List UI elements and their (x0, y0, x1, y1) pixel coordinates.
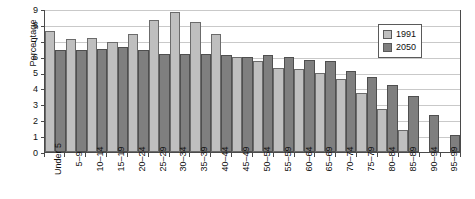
bar-1991-15–19 (107, 42, 117, 152)
x-tick-label: 35–39 (200, 146, 209, 171)
bar-2050-10–14 (97, 49, 107, 152)
bar-group (232, 11, 253, 152)
bar-group (273, 11, 294, 152)
bar-group (356, 11, 377, 152)
x-label-cell: 80–84 (378, 157, 399, 199)
bar-group (439, 11, 460, 152)
y-tick-label: 5 (33, 69, 38, 78)
bar-1991-75–79 (356, 93, 366, 152)
legend: 1991 2050 (378, 24, 422, 58)
y-tick-label: 8 (33, 21, 38, 30)
bar-2050-50–54 (263, 55, 273, 152)
bar-2050-80–84 (387, 85, 397, 152)
bar-group (253, 11, 274, 152)
bar-2050-85–89 (408, 96, 418, 152)
legend-item-1991: 1991 (383, 28, 416, 41)
x-axis-labels: Under 55–910–1415–1920–2425–2930–3435–39… (44, 157, 461, 199)
y-tick-label: 1 (33, 133, 38, 142)
bar-1991-10–14 (87, 38, 97, 152)
x-label-cell: 30–34 (169, 157, 190, 199)
bar-1991-35–39 (190, 22, 200, 152)
y-tick-label: 7 (33, 37, 38, 46)
bar-1991-5–9 (66, 39, 76, 152)
x-label-cell: 55–59 (273, 157, 294, 199)
bar-1991-Under-5 (45, 31, 55, 152)
x-label-cell: 45–49 (232, 157, 253, 199)
bar-group (66, 11, 87, 152)
x-tick-label: 40–44 (221, 146, 230, 171)
bar-2050-55–59 (284, 57, 294, 152)
x-tick-label: 30–34 (179, 146, 188, 171)
bar-group (336, 11, 357, 152)
x-label-cell: 65–69 (315, 157, 336, 199)
legend-swatch-2050 (383, 43, 392, 52)
bar-1991-80–84 (377, 109, 387, 152)
x-label-cell: 35–39 (190, 157, 211, 199)
x-tick-label: 55–59 (284, 146, 293, 171)
bar-2050-40–44 (221, 55, 231, 152)
bar-1991-70–74 (336, 79, 346, 152)
y-tick-label: 6 (33, 53, 38, 62)
bar-group (107, 11, 128, 152)
x-tick-label: 85–89 (409, 146, 418, 171)
x-tick-label: 90–94 (430, 146, 439, 171)
bar-1991-40–44 (211, 34, 221, 152)
bar-group (149, 11, 170, 152)
bar-1991-60–64 (294, 69, 304, 152)
x-tick-label: 25–29 (159, 146, 168, 171)
y-tick-label: 9 (33, 6, 38, 15)
bar-1991-55–59 (273, 68, 283, 152)
bar-1991-20–24 (128, 34, 138, 152)
y-tick-label: 3 (33, 101, 38, 110)
x-label-cell: 60–64 (294, 157, 315, 199)
x-tick-label: 65–69 (325, 146, 334, 171)
bar-1991-50–54 (253, 61, 263, 152)
legend-item-2050: 2050 (383, 41, 416, 54)
bar-group (87, 11, 108, 152)
bar-1991-30–34 (170, 12, 180, 152)
bar-2050-30–34 (180, 54, 190, 153)
x-tick-label: 80–84 (388, 146, 397, 171)
x-label-cell: 15–19 (107, 157, 128, 199)
y-axis: 0123456789 (0, 0, 42, 199)
bar-1991-45–49 (232, 57, 242, 152)
bar-2050-20–24 (138, 50, 148, 152)
x-label-cell: 75–79 (357, 157, 378, 199)
x-label-cell: 70–74 (336, 157, 357, 199)
x-label-cell: 10–14 (86, 157, 107, 199)
bar-chart: Percentage 0123456789 Under 55–910–1415–… (0, 0, 475, 199)
bar-group (294, 11, 315, 152)
legend-label-2050: 2050 (396, 43, 416, 52)
y-tick-label: 2 (33, 117, 38, 126)
bar-group (170, 11, 191, 152)
legend-swatch-1991 (383, 30, 392, 39)
bar-2050-60–64 (304, 60, 314, 152)
x-label-cell: 5–9 (65, 157, 86, 199)
x-tick-label: 45–49 (242, 146, 251, 171)
x-label-cell: 20–24 (127, 157, 148, 199)
x-tick-label: 15–19 (117, 146, 126, 171)
x-tick-label: 70–74 (346, 146, 355, 171)
x-tick-label: 95–99 (450, 146, 459, 171)
bar-2050-15–19 (118, 47, 128, 152)
bar-2050-Under-5 (55, 50, 65, 152)
x-label-cell: 40–44 (211, 157, 232, 199)
x-tick-label: Under 5 (54, 143, 63, 175)
bar-group (45, 11, 66, 152)
bar-2050-5–9 (76, 50, 86, 152)
bar-2050-25–29 (159, 54, 169, 153)
bar-1991-65–69 (315, 73, 325, 152)
bar-group (128, 11, 149, 152)
bar-1991-25–29 (149, 20, 159, 152)
x-tick-label: 10–14 (96, 146, 105, 171)
x-label-cell: 85–89 (398, 157, 419, 199)
x-label-cell: 50–54 (252, 157, 273, 199)
x-tick-label: 5–9 (75, 151, 84, 166)
y-tick-label: 0 (33, 149, 38, 158)
x-label-cell: 95–99 (440, 157, 461, 199)
y-tick-label: 4 (33, 85, 38, 94)
bar-1991-90–94 (419, 151, 429, 152)
bar-1991-85–89 (398, 130, 408, 152)
x-tick-label: 75–79 (367, 146, 376, 171)
bar-group (190, 11, 211, 152)
